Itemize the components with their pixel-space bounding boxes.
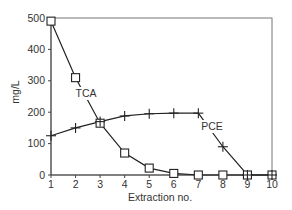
y-tick-label: 500: [27, 12, 45, 24]
x-tick-label: 3: [97, 178, 103, 190]
x-tick-label: 7: [195, 178, 201, 190]
plus-marker-icon: [193, 108, 203, 118]
square-marker-icon: [170, 169, 178, 177]
x-tick-label: 4: [122, 178, 128, 190]
square-marker-icon: [219, 171, 227, 179]
y-tick-label: 100: [27, 137, 45, 149]
plus-marker-icon: [120, 111, 130, 121]
annotation-pce: PCE: [201, 120, 223, 132]
series-line-pce: [51, 113, 272, 175]
y-tick-label: 400: [27, 43, 45, 55]
x-tick-label: 6: [171, 178, 177, 190]
y-tick-label: 300: [27, 74, 45, 86]
line-chart: 0100200300400500 12345678910 TCAPCE Extr…: [0, 0, 292, 210]
square-marker-icon: [72, 74, 80, 82]
x-axis-label: Extraction no.: [128, 191, 192, 203]
y-axis: 0100200300400500: [27, 12, 51, 181]
square-marker-icon: [145, 164, 153, 172]
plus-marker-icon: [46, 131, 56, 141]
square-marker-icon: [47, 17, 55, 25]
plus-marker-icon: [144, 109, 154, 119]
annotation-tca: TCA: [76, 87, 97, 99]
plus-marker-icon: [169, 108, 179, 118]
x-tick-label: 2: [73, 178, 79, 190]
y-tick-label: 200: [27, 106, 45, 118]
square-marker-icon: [194, 171, 202, 179]
square-marker-icon: [121, 149, 129, 157]
x-tick-label: 5: [146, 178, 152, 190]
plus-marker-icon: [71, 123, 81, 133]
y-axis-label: mg/L: [9, 80, 21, 104]
x-tick-label: 8: [220, 178, 226, 190]
x-tick-label: 1: [48, 178, 54, 190]
y-tick-label: 0: [39, 169, 45, 181]
